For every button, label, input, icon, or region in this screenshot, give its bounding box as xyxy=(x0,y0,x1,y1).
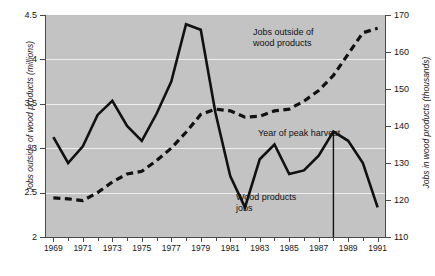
x-axis-tick xyxy=(319,238,320,242)
y-axis-right-tick xyxy=(386,163,391,164)
x-axis-tick xyxy=(378,238,379,242)
y-axis-right-tick xyxy=(386,237,391,238)
x-axis-minor-tick xyxy=(274,238,275,241)
y-axis-left-tick xyxy=(40,148,45,149)
y-axis-right-tick xyxy=(386,52,391,53)
x-axis-minor-tick xyxy=(186,238,187,241)
y-axis-right-tick xyxy=(386,89,391,90)
y-axis-left-tick xyxy=(40,59,45,60)
y-axis-right-tick-label: 110 xyxy=(394,233,408,242)
y-axis-left-tick xyxy=(40,15,45,16)
x-axis-tick xyxy=(201,238,202,242)
x-axis-minor-tick xyxy=(127,238,128,241)
plot-area xyxy=(46,15,385,237)
y-axis-right-tick-label: 140 xyxy=(394,122,409,131)
y-axis-left-line xyxy=(45,15,46,238)
x-axis-minor-tick xyxy=(304,238,305,241)
x-axis-tick xyxy=(348,238,349,242)
chart-figure: 22.533.544.51101201301401501601701969197… xyxy=(0,0,435,276)
x-axis-minor-tick xyxy=(68,238,69,241)
x-axis-minor-tick xyxy=(98,238,99,241)
x-axis-tick xyxy=(260,238,261,242)
y-axis-right-tick-label: 150 xyxy=(394,85,409,94)
y-axis-left-tick xyxy=(40,104,45,105)
annotation-year-of-peak-harvest: Year of peak harvest xyxy=(258,128,340,139)
y-axis-left-tick xyxy=(40,193,45,194)
y-axis-left-tick-label: 4.5 xyxy=(0,11,37,20)
y-axis-left-tick xyxy=(40,237,45,238)
x-axis-minor-tick xyxy=(216,238,217,241)
y-axis-left-tick-label: 2 xyxy=(0,233,37,242)
y-axis-right-title: Jobs in wood products (thousands) xyxy=(422,33,431,213)
x-axis-minor-tick xyxy=(333,238,334,241)
y-axis-right-tick xyxy=(386,126,391,127)
annotation-wood-products-jobs: Wood products jobs xyxy=(236,192,296,214)
x-axis-tick xyxy=(289,238,290,242)
x-axis-tick-label: 1991 xyxy=(358,244,398,253)
x-axis-tick xyxy=(230,238,231,242)
grid-line xyxy=(46,193,385,194)
y-axis-left-title: Jobs outside of wood products (millions) xyxy=(26,27,35,207)
x-axis-minor-tick xyxy=(157,238,158,241)
x-axis-tick xyxy=(83,238,84,242)
x-axis-tick xyxy=(142,238,143,242)
grid-line xyxy=(46,59,385,60)
grid-line xyxy=(46,104,385,105)
grid-line xyxy=(46,148,385,149)
x-axis-minor-tick xyxy=(363,238,364,241)
y-axis-right-tick xyxy=(386,200,391,201)
y-axis-right-tick-label: 170 xyxy=(394,11,409,20)
x-axis-tick xyxy=(112,238,113,242)
x-axis-tick xyxy=(171,238,172,242)
y-axis-right-tick-label: 120 xyxy=(394,196,409,205)
x-axis-tick xyxy=(53,238,54,242)
x-axis-minor-tick xyxy=(245,238,246,241)
y-axis-right-tick xyxy=(386,15,391,16)
annotation-jobs-outside-wood-products: Jobs outside of wood products xyxy=(253,27,314,49)
y-axis-right-tick-label: 160 xyxy=(394,48,409,57)
y-axis-right-tick-label: 130 xyxy=(394,159,409,168)
